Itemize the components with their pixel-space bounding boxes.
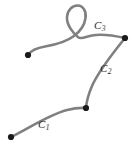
curve-node-c2-end-c3-start: [122, 35, 128, 41]
curve-label-c3-subscript: 3: [102, 24, 106, 33]
curve-label-c1-base: C: [38, 118, 45, 130]
curve-label-c3-base: C: [94, 19, 101, 31]
curve-label-c3: C3: [94, 20, 105, 31]
curve-label-c2-subscript: 2: [108, 67, 112, 76]
curve-diagram: C1 C2 C3: [0, 0, 135, 146]
curve-canvas: [0, 0, 135, 146]
curve-node-c1-end-c2-start: [83, 105, 89, 111]
curve-label-c2: C2: [100, 63, 111, 74]
curve-node-c3-end: [25, 52, 31, 58]
curve-label-c1-subscript: 1: [46, 123, 50, 132]
curve-label-c2-base: C: [100, 62, 107, 74]
curve-label-c1: C1: [38, 119, 49, 130]
curve-node-c1-start: [8, 134, 14, 140]
